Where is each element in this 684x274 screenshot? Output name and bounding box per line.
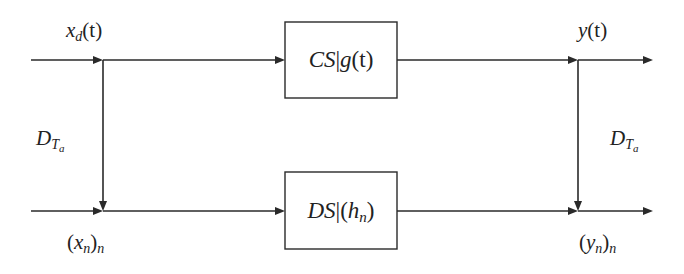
block-prefix: DS <box>307 198 335 223</box>
right-branch-label: DTa <box>610 128 638 149</box>
block-prefix: CS <box>309 47 336 72</box>
label-base: y <box>578 18 587 42</box>
arrowhead-down-icon <box>99 201 107 211</box>
top-input-label: xd(t) <box>66 20 102 41</box>
block-function: h <box>348 198 360 223</box>
label-outer-subscript: n <box>609 241 616 256</box>
label-base: D <box>610 126 625 150</box>
label-base: x <box>74 230 83 254</box>
label-base: y <box>586 230 595 254</box>
top-output-label: y(t) <box>578 20 607 41</box>
arrowhead-icon <box>275 56 285 64</box>
label-base: x <box>66 18 75 42</box>
arrowhead-icon <box>568 207 578 215</box>
label-base: D <box>36 126 51 150</box>
label-outer-subscript: n <box>97 241 104 256</box>
label-argument: (t) <box>587 18 607 42</box>
block-open-paren: ( <box>340 198 348 223</box>
arrowhead-icon <box>568 56 578 64</box>
label-subsubscript: a <box>59 142 65 154</box>
bottom-output-label: (yn)n <box>579 232 616 253</box>
arrowhead-icon <box>643 207 653 215</box>
block-close-paren: ) <box>367 198 375 223</box>
bottom-input-label: (xn)n <box>67 232 104 253</box>
label-argument: (t) <box>82 18 102 42</box>
arrowhead-icon <box>275 207 285 215</box>
arrowhead-icon <box>93 56 103 64</box>
block-subscript: n <box>359 209 367 225</box>
left-branch-label: DTa <box>36 128 64 149</box>
label-subscript: T <box>625 137 633 152</box>
cs-block-label: CS|g(t) <box>285 48 397 71</box>
arrowhead-down-icon <box>574 201 582 211</box>
label-open-paren: ( <box>67 230 74 254</box>
label-subsubscript: a <box>633 142 639 154</box>
label-open-paren: ( <box>579 230 586 254</box>
label-subscript: T <box>51 137 59 152</box>
ds-block-label: DS|(hn) <box>285 199 397 222</box>
arrowhead-icon <box>93 207 103 215</box>
arrowhead-icon <box>643 56 653 64</box>
block-argument: (t) <box>352 47 374 72</box>
block-function: g <box>340 47 352 72</box>
